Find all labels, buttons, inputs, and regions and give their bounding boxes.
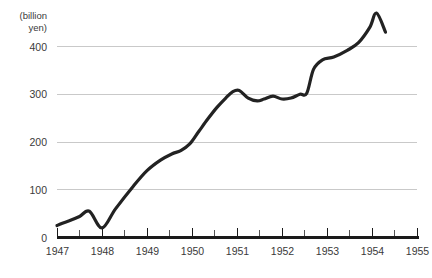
x-tick-label-1950: 1950: [181, 245, 205, 257]
x-axis-labels: 1947 1948 1949 1950 1951 1952 1953 1954 …: [46, 245, 430, 257]
x-axis-major-ticks: [58, 228, 418, 236]
x-tick-label-1948: 1948: [91, 245, 115, 257]
x-tick-label-1953: 1953: [316, 245, 340, 257]
y-axis-labels: (billion yen) 400 300 200 100 0: [20, 10, 48, 244]
chart-container: (billion yen) 400 300 200 100 0: [0, 0, 432, 278]
y-tick-label-200: 200: [29, 136, 47, 148]
x-tick-label-1952: 1952: [271, 245, 295, 257]
x-tick-label-1949: 1949: [136, 245, 160, 257]
gridlines-group: [57, 47, 417, 190]
x-tick-label-1947: 1947: [46, 245, 70, 257]
y-axis-unit-line2: yen): [29, 22, 47, 33]
y-tick-label-300: 300: [29, 88, 47, 100]
y-axis-unit-line1: (billion: [20, 10, 47, 21]
y-tick-label-0: 0: [41, 232, 47, 244]
x-tick-label-1955: 1955: [406, 245, 430, 257]
x-tick-label-1951: 1951: [226, 245, 250, 257]
y-tick-label-100: 100: [29, 184, 47, 196]
line-chart: (billion yen) 400 300 200 100 0: [0, 0, 432, 278]
y-tick-label-400: 400: [29, 41, 47, 53]
x-tick-label-1954: 1954: [361, 245, 385, 257]
data-series-line: [57, 13, 386, 228]
